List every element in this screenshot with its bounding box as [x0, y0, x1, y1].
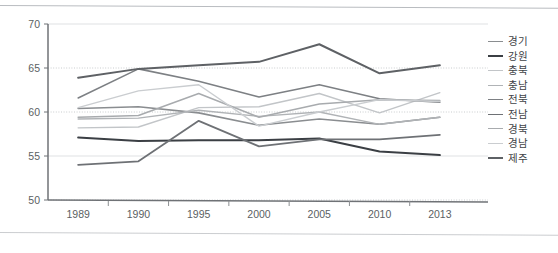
y-tick-label: 70: [28, 18, 40, 30]
axis-lines: [48, 24, 488, 202]
y-tick-label: 60: [28, 106, 40, 118]
legend-swatch-icon: [488, 143, 503, 144]
legend-swatch-icon: [488, 85, 503, 86]
y-tick-label: 50: [28, 194, 40, 206]
y-tick-label: 65: [28, 62, 40, 74]
gridlines: [48, 24, 488, 200]
legend-swatch-icon: [488, 55, 503, 57]
legend-label: 제주: [508, 153, 528, 164]
chart-legend: 경기강원충북충남전북전남경북경남제주: [488, 34, 558, 165]
line-chart: 7065605550 1989199019952000200520102013: [0, 0, 558, 253]
x-tick-label: 2010: [368, 208, 392, 220]
legend-item-강원[interactable]: 강원: [488, 49, 558, 64]
legend-swatch-icon: [488, 157, 503, 159]
x-axis: [48, 200, 488, 202]
legend-item-충남[interactable]: 충남: [488, 78, 558, 93]
legend-label: 충북: [508, 65, 528, 76]
legend-label: 강원: [508, 51, 528, 62]
legend-label: 경남: [508, 138, 528, 149]
legend-swatch-icon: [488, 128, 503, 129]
legend-swatch-icon: [488, 41, 503, 42]
series-line-전북: [78, 69, 440, 102]
legend-swatch-icon: [488, 99, 503, 100]
legend-item-전남[interactable]: 전남: [488, 107, 558, 122]
legend-swatch-icon: [488, 114, 503, 115]
legend-label: 전남: [508, 109, 528, 120]
x-tick-label: 2013: [428, 208, 452, 220]
x-tick-label: 2000: [247, 208, 271, 220]
legend-item-전북[interactable]: 전북: [488, 92, 558, 107]
chart-page: 7065605550 1989199019952000200520102013 …: [0, 0, 558, 253]
series-line-충북: [78, 93, 440, 128]
legend-label: 경기: [508, 36, 528, 47]
legend-label: 경북: [508, 124, 528, 135]
y-tick-label: 55: [28, 150, 40, 162]
x-tick-label: 1990: [127, 208, 151, 220]
x-axis-tick-labels: 1989199019952000200520102013: [66, 208, 451, 220]
legend-label: 전북: [508, 94, 528, 105]
x-tick-label: 1995: [187, 208, 211, 220]
legend-item-경북[interactable]: 경북: [488, 122, 558, 137]
legend-item-제주[interactable]: 제주: [488, 151, 558, 166]
legend-item-충북[interactable]: 충북: [488, 63, 558, 78]
x-tick-label: 2005: [308, 208, 332, 220]
x-tick-label: 1989: [66, 208, 90, 220]
legend-item-경기[interactable]: 경기: [488, 34, 558, 49]
legend-label: 충남: [508, 80, 528, 91]
y-axis-tick-labels: 7065605550: [28, 18, 48, 206]
chart-svg: 7065605550 1989199019952000200520102013: [0, 0, 558, 253]
series-line-경남: [78, 85, 440, 126]
data-series-group: [78, 44, 440, 165]
legend-item-경남[interactable]: 경남: [488, 136, 558, 151]
legend-swatch-icon: [488, 70, 503, 71]
